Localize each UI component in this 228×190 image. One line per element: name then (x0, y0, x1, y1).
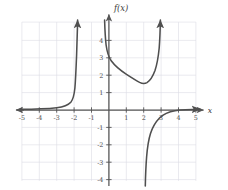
y-tick-label: -3 (97, 159, 103, 167)
x-tick-label: -2 (71, 114, 77, 122)
y-tick-label: -4 (97, 176, 103, 184)
y-tick-label: 4 (99, 37, 103, 45)
function-label: f(x) (113, 3, 128, 13)
x-tick-label: 4 (176, 114, 180, 122)
y-tick-label: 1 (99, 89, 103, 97)
x-tick-label: 5 (194, 114, 198, 122)
y-tick-label: -2 (97, 141, 103, 149)
canvas-background (0, 0, 228, 190)
y-tick-label: -1 (97, 124, 103, 132)
x-axis-label: x (208, 106, 213, 115)
y-tick-label: 3 (99, 54, 103, 62)
x-tick-label: -5 (19, 114, 25, 122)
y-tick-label: 2 (99, 72, 103, 80)
function-graph: -5 -4 -3 -2 -1 1 2 3 4 5 4 3 2 1 -1 -2 -… (0, 0, 228, 190)
x-tick-label: -3 (54, 114, 60, 122)
x-tick-label: 1 (124, 114, 128, 122)
x-tick-label: -1 (88, 114, 94, 122)
plot-svg: -5 -4 -3 -2 -1 1 2 3 4 5 4 3 2 1 -1 -2 -… (0, 0, 228, 190)
x-tick-label: -4 (36, 114, 42, 122)
x-tick-label: 2 (142, 114, 146, 122)
